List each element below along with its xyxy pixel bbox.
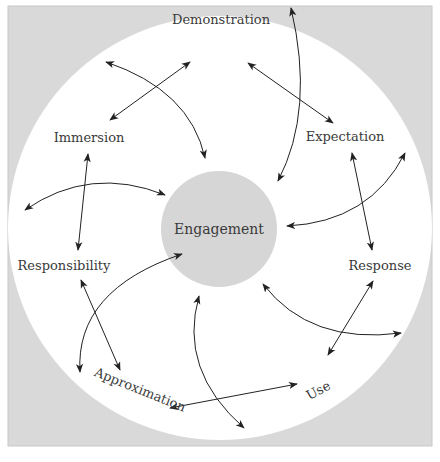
label-responsibility: Responsibility (18, 258, 112, 273)
label-response: Response (348, 258, 411, 273)
label-demonstration: Demonstration (172, 12, 271, 27)
label-engagement: Engagement (174, 221, 264, 237)
label-immersion: Immersion (54, 130, 125, 145)
engagement-cycle-diagram: Engagement Demonstration Expectation Res… (0, 0, 440, 462)
label-expectation: Expectation (306, 129, 385, 144)
diagram-canvas: Engagement Demonstration Expectation Res… (0, 0, 440, 462)
